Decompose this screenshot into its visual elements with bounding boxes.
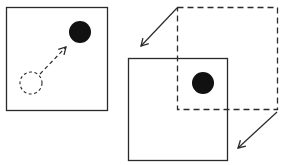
left-panel [7, 8, 108, 111]
fixed-dot [192, 72, 214, 94]
displacement-arrow-bottom [238, 112, 277, 148]
diagram-canvas [0, 0, 283, 165]
end-position-dot [69, 21, 91, 43]
displacement-arrow-top [141, 8, 177, 46]
start-position-circle [20, 72, 42, 94]
diagram-svg [0, 0, 283, 165]
movement-arrow-dashed [40, 47, 66, 74]
left-frame [7, 8, 108, 111]
right-panel [129, 8, 278, 161]
